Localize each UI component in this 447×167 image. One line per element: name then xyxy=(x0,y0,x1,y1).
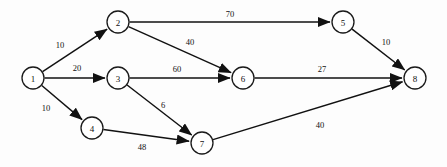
edge-weight-3-7: 6 xyxy=(161,100,165,110)
edge-weight-4-7: 48 xyxy=(138,142,147,152)
diagram-canvas: 102010704060648102740 12345678 xyxy=(0,0,447,167)
node-label-6: 6 xyxy=(241,74,246,84)
node-label-2: 2 xyxy=(116,18,121,28)
node-2[interactable]: 2 xyxy=(107,11,129,33)
edge-weight-7-8: 40 xyxy=(316,120,325,130)
node-6[interactable]: 6 xyxy=(232,67,254,89)
node-label-1: 1 xyxy=(31,74,36,84)
node-1[interactable]: 1 xyxy=(22,67,44,89)
node-label-4: 4 xyxy=(90,124,95,134)
node-7[interactable]: 7 xyxy=(191,132,213,154)
node-8[interactable]: 8 xyxy=(404,67,426,89)
node-label-7: 7 xyxy=(200,139,205,149)
edge-weight-1-4: 10 xyxy=(42,103,51,113)
edge-7-to-8 xyxy=(213,82,403,140)
edge-weight-2-6: 40 xyxy=(186,37,195,47)
edge-weight-6-8: 27 xyxy=(318,64,327,74)
node-3[interactable]: 3 xyxy=(107,67,129,89)
edge-4-to-7 xyxy=(103,130,189,142)
node-5[interactable]: 5 xyxy=(332,11,354,33)
edge-3-to-7 xyxy=(127,85,192,135)
edge-weight-1-3: 20 xyxy=(73,63,82,73)
node-4[interactable]: 4 xyxy=(81,117,103,139)
node-label-8: 8 xyxy=(413,74,418,84)
edge-weight-2-5: 70 xyxy=(226,9,235,19)
nodes-layer: 12345678 xyxy=(22,11,426,154)
edge-weight-1-2: 10 xyxy=(56,40,65,50)
node-label-3: 3 xyxy=(116,74,121,84)
edge-weight-5-8: 10 xyxy=(382,37,391,47)
edge-5-to-8 xyxy=(352,29,405,70)
network-graph: 102010704060648102740 12345678 xyxy=(0,0,447,167)
node-label-5: 5 xyxy=(341,18,346,28)
edge-weight-3-6: 60 xyxy=(173,64,182,74)
